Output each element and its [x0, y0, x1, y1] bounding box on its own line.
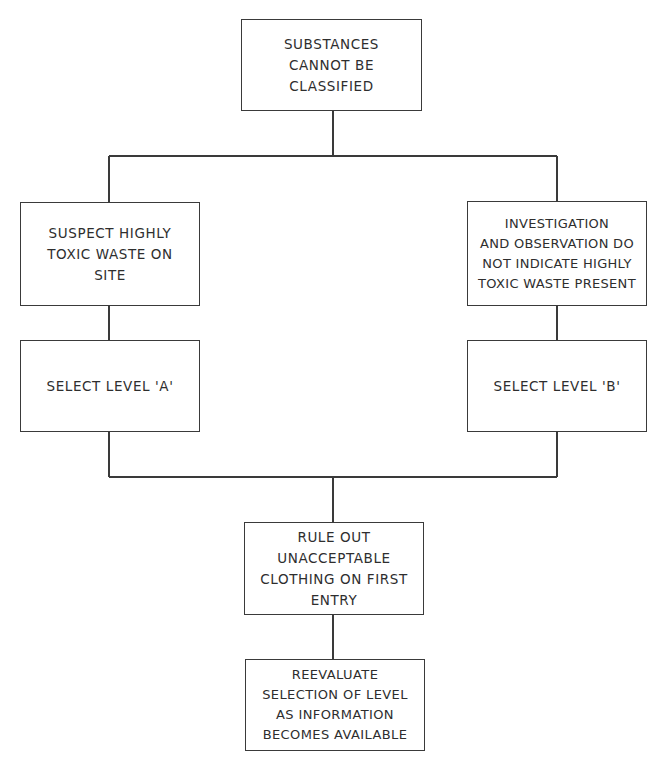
node-reevaluate-selection: REEVALUATE SELECTION OF LEVEL AS INFORMA… [245, 659, 425, 751]
node-label: SUBSTANCES CANNOT BE CLASSIFIED [284, 34, 379, 97]
node-select-level-b: SELECT LEVEL 'B' [467, 340, 647, 432]
node-select-level-a: SELECT LEVEL 'A' [20, 340, 200, 432]
node-suspect-highly-toxic-waste: SUSPECT HIGHLY TOXIC WASTE ON SITE [20, 202, 200, 306]
node-label: SELECT LEVEL 'A' [47, 376, 174, 397]
node-substances-cannot-be-classified: SUBSTANCES CANNOT BE CLASSIFIED [241, 19, 422, 111]
node-label: SELECT LEVEL 'B' [493, 376, 620, 397]
node-rule-out-unacceptable-clothing: RULE OUT UNACCEPTABLE CLOTHING ON FIRST … [244, 522, 424, 615]
node-label: REEVALUATE SELECTION OF LEVEL AS INFORMA… [262, 665, 408, 745]
node-label: RULE OUT UNACCEPTABLE CLOTHING ON FIRST … [260, 527, 407, 611]
node-label: INVESTIGATION AND OBSERVATION DO NOT IND… [478, 214, 636, 294]
node-label: SUSPECT HIGHLY TOXIC WASTE ON SITE [47, 223, 173, 286]
node-no-highly-toxic-waste: INVESTIGATION AND OBSERVATION DO NOT IND… [467, 201, 647, 306]
flowchart-diagram: SUBSTANCES CANNOT BE CLASSIFIED SUSPECT … [0, 0, 662, 762]
